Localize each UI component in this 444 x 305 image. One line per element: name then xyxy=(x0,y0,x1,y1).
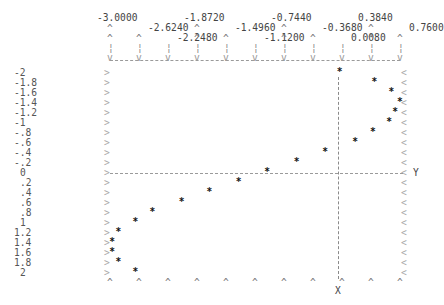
bottom-tick-caret: ^ xyxy=(107,278,113,288)
x-tick-v: v xyxy=(368,53,374,63)
x-tick-v: v xyxy=(223,53,229,63)
top-frame-line xyxy=(110,60,400,61)
data-point-marker: * xyxy=(236,177,242,187)
bottom-tick-caret: ^ xyxy=(194,278,200,288)
bottom-tick-caret: ^ xyxy=(223,278,229,288)
data-point-marker: * xyxy=(389,87,395,97)
y-tick-label: -.2 xyxy=(14,158,44,168)
x-tick-v: v xyxy=(194,53,200,63)
y-tick-label: 2 xyxy=(20,268,50,278)
x-tick-v: v xyxy=(397,53,403,63)
x-tick-label: -1.8720 xyxy=(184,13,224,23)
data-point-marker: * xyxy=(370,127,376,137)
data-point-marker: * xyxy=(109,247,115,257)
data-point-marker: * xyxy=(115,257,121,267)
x-tick-label: 0.7600 xyxy=(409,23,444,33)
bottom-tick-caret: ^ xyxy=(252,278,258,288)
x-tick-v: v xyxy=(136,53,142,63)
bottom-tick-caret: ^ xyxy=(397,278,403,288)
data-point-marker: * xyxy=(372,77,378,87)
y-zero-axis-line xyxy=(110,173,403,174)
data-point-marker: * xyxy=(322,147,328,157)
x-tick-v: v xyxy=(165,53,171,63)
data-point-marker: * xyxy=(352,137,358,147)
data-point-marker: * xyxy=(179,197,185,207)
y-tick-label: 1.8 xyxy=(14,258,44,268)
data-point-marker: * xyxy=(264,167,270,177)
bottom-tick-caret: ^ xyxy=(368,278,374,288)
bottom-tick-caret: ^ xyxy=(339,278,345,288)
data-point-marker: * xyxy=(294,157,300,167)
bottom-tick-caret: ^ xyxy=(310,278,316,288)
x-tick-label: -3.0000 xyxy=(97,13,137,23)
data-point-marker: * xyxy=(337,67,343,77)
data-point-marker: * xyxy=(132,267,138,277)
data-point-marker: * xyxy=(132,217,138,227)
y-axis-label: Y xyxy=(413,168,419,178)
x-tick-v: v xyxy=(339,53,345,63)
data-point-marker: * xyxy=(115,227,121,237)
x-tick-v: v xyxy=(310,53,316,63)
data-point-marker: * xyxy=(206,187,212,197)
bottom-tick-caret: ^ xyxy=(136,278,142,288)
x-tick-v: v xyxy=(252,53,258,63)
bottom-tick-caret: ^ xyxy=(281,278,287,288)
data-point-marker: * xyxy=(149,207,155,217)
x-tick-label: -0.7440 xyxy=(271,13,311,23)
data-point-marker: * xyxy=(392,107,398,117)
x-tick-v: v xyxy=(281,53,287,63)
x-zero-axis-line xyxy=(338,77,339,279)
x-tick-v: v xyxy=(107,53,113,63)
data-point-marker: * xyxy=(386,117,392,127)
x-tick-label: 0.3840 xyxy=(358,13,393,23)
bottom-tick-caret: ^ xyxy=(165,278,171,288)
